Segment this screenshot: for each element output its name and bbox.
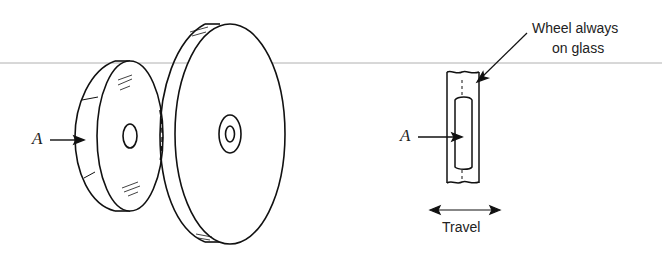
label-a-left: A <box>32 129 42 149</box>
annotation-line-1: Wheel always <box>532 20 618 36</box>
travel-double-arrow <box>430 206 500 214</box>
diagram-drawing <box>0 0 662 258</box>
arrow-a-left <box>50 136 84 144</box>
annotation-line-2: on glass <box>552 40 604 56</box>
label-travel: Travel <box>442 219 480 235</box>
annotation-leader-arrow <box>477 33 527 82</box>
glass-disk <box>75 61 163 211</box>
diagram-canvas: A A Wheel always on glass Travel <box>0 0 662 258</box>
grinding-wheel <box>160 24 285 244</box>
side-view-section <box>447 72 479 183</box>
label-a-right: A <box>400 126 410 146</box>
arrow-a-right <box>418 133 462 141</box>
